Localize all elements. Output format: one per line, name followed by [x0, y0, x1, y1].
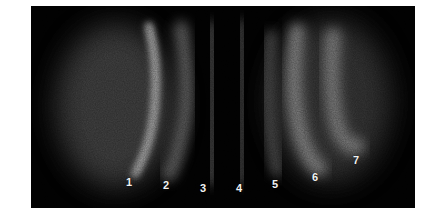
grain-overlay — [31, 6, 415, 208]
image-panel — [31, 6, 415, 208]
band-label-6: 6 — [312, 172, 318, 183]
band-label-4: 4 — [236, 183, 242, 194]
band-label-3: 3 — [200, 183, 206, 194]
band-label-1: 1 — [126, 177, 132, 188]
band-label-2: 2 — [163, 180, 169, 191]
band-label-7: 7 — [353, 155, 359, 166]
bands-graphic — [31, 6, 415, 208]
band-label-5: 5 — [272, 179, 278, 190]
